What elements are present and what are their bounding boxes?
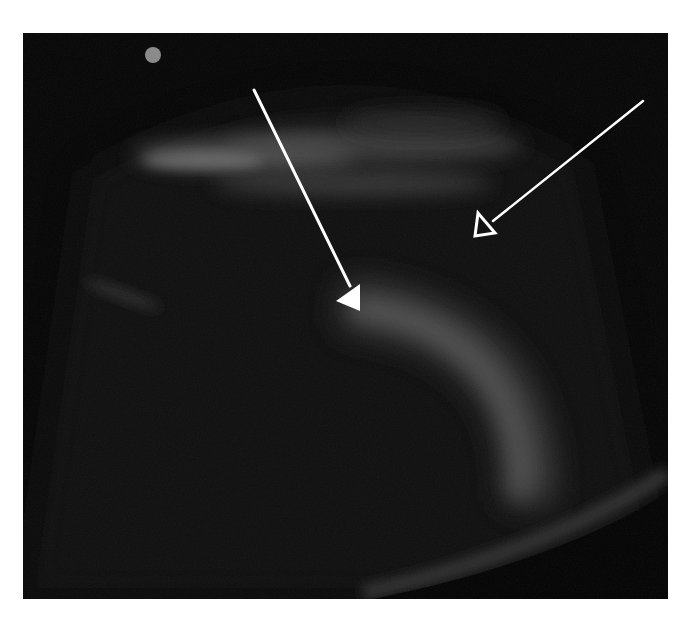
ultrasound-canvas bbox=[23, 33, 668, 599]
orientation-dot-marker bbox=[145, 47, 161, 63]
ultrasound-image bbox=[23, 33, 668, 599]
speckle-noise bbox=[23, 33, 668, 599]
